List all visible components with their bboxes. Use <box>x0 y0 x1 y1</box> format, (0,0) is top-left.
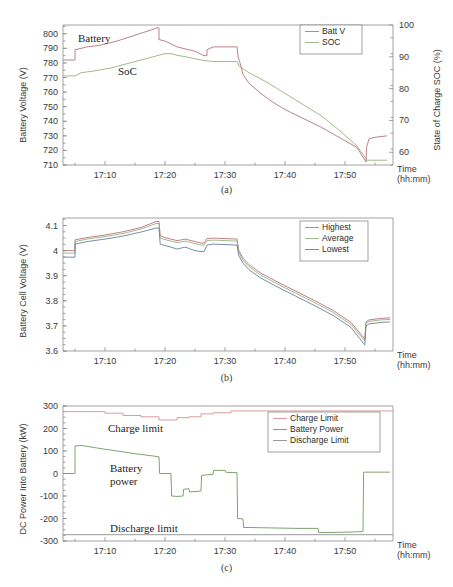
ytick-label: 720 <box>43 145 58 155</box>
xtick-label: 17:30 <box>214 170 237 180</box>
legend-label-average[interactable]: Average <box>322 233 354 243</box>
xtick-label: 17:50 <box>334 170 357 180</box>
chart-c-ylabel-text: DC Power Into Battery (kW) <box>18 423 28 534</box>
chart-c-plot: DC Power Into Battery (kW) -300-200-1000… <box>0 384 453 587</box>
chart-b-plot: Battery Cell Voltage (V) 3.63.73.83.944.… <box>0 196 453 388</box>
chart-c-ytick-labels: -300-200-1000100200300 <box>40 401 58 546</box>
chart-a-time-axis-label: Time (hh:mm) <box>397 164 431 184</box>
chart-b-caption: (b) <box>0 372 453 383</box>
chart-c-caption: (c) <box>0 562 453 573</box>
legend-label-charge-limit[interactable]: Charge Limit <box>290 413 339 423</box>
y2tick-label: 80 <box>399 84 409 94</box>
chart-c-time-label-line1: Time <box>397 540 417 550</box>
xtick-label: 17:20 <box>154 356 177 366</box>
ytick-label: 800 <box>43 29 58 39</box>
legend-label-soc[interactable]: SOC <box>322 37 340 47</box>
xtick-label: 17:40 <box>274 170 297 180</box>
legend-label-discharge-limit[interactable]: Discharge Limit <box>290 435 349 445</box>
chart-b-ylabel: Battery Cell Voltage (V) <box>18 244 28 338</box>
ytick-label: 760 <box>43 87 58 97</box>
chart-b-time-label-line1: Time <box>397 350 417 360</box>
panel-a: Battery Voltage (V) State of Charge SOC … <box>0 0 453 200</box>
ytick-label: 3.8 <box>45 296 58 306</box>
y2tick-label: 90 <box>399 52 409 62</box>
chart-b-time-axis-label: Time (hh:mm) <box>397 350 431 370</box>
xtick-label: 17:40 <box>274 546 297 556</box>
chart-c-ylabel: DC Power Into Battery (kW) <box>18 423 28 534</box>
legend-label-batt-v[interactable]: Batt V <box>322 26 345 36</box>
chart-a-y2label: State of Charge SOC (%) <box>432 49 442 151</box>
chart-b-xtick-labels: 17:1017:2017:3017:4017:50 <box>94 356 357 366</box>
xtick-label: 17:20 <box>154 170 177 180</box>
xtick-label: 17:50 <box>334 356 357 366</box>
chart-c-svg: DC Power Into Battery (kW) -300-200-1000… <box>0 384 453 587</box>
ytick-label: 770 <box>43 73 58 83</box>
chart-a-ylabel: Battery Voltage (V) <box>18 67 28 143</box>
battery-power-label-line1: Battery <box>110 462 143 474</box>
chart-a-legend[interactable]: Batt VSOC <box>300 25 362 54</box>
xtick-label: 17:30 <box>214 546 237 556</box>
ytick-label: 300 <box>43 401 58 411</box>
chart-a-plot: Battery Voltage (V) State of Charge SOC … <box>0 0 453 200</box>
panel-c: DC Power Into Battery (kW) -300-200-1000… <box>0 384 453 587</box>
legend-label-highest[interactable]: Highest <box>322 222 351 232</box>
ytick-label: 710 <box>43 160 58 170</box>
panel-b: Battery Cell Voltage (V) 3.63.73.83.944.… <box>0 196 453 388</box>
series-line-soc <box>63 54 387 161</box>
chart-c-time-axis-label: Time (hh:mm) <box>397 540 431 560</box>
chart-b-time-label-line2: (hh:mm) <box>397 360 431 370</box>
ytick-label: -300 <box>40 536 58 546</box>
xtick-label: 17:10 <box>94 356 117 366</box>
battery-power-label-line2: power <box>110 475 138 487</box>
chart-a-xtick-labels: 17:1017:2017:3017:4017:50 <box>94 170 357 180</box>
chart-a-y2label-text: State of Charge SOC (%) <box>432 49 442 151</box>
chart-b-ylabel-text: Battery Cell Voltage (V) <box>18 244 28 338</box>
ytick-label: 4 <box>53 246 58 256</box>
ytick-label: 3.6 <box>45 346 58 356</box>
legend-label-lowest[interactable]: Lowest <box>322 244 350 254</box>
ytick-label: -200 <box>40 514 58 524</box>
battery-label: Battery <box>78 32 111 44</box>
soc-label: SoC <box>118 65 137 77</box>
chart-b-svg: Battery Cell Voltage (V) 3.63.73.83.944.… <box>0 196 453 388</box>
ytick-label: 780 <box>43 58 58 68</box>
chart-c-xtick-labels: 17:1017:2017:3017:4017:50 <box>94 546 357 556</box>
y2tick-label: 60 <box>399 147 409 157</box>
discharge-limit-label: Discharge limit <box>110 522 178 534</box>
ytick-label: -100 <box>40 491 58 501</box>
xtick-label: 17:50 <box>334 546 357 556</box>
xtick-label: 17:30 <box>214 356 237 366</box>
ytick-label: 3.7 <box>45 321 58 331</box>
chart-a-svg: Battery Voltage (V) State of Charge SOC … <box>0 0 453 200</box>
ytick-label: 750 <box>43 102 58 112</box>
ytick-label: 0 <box>53 469 58 479</box>
charge-limit-label: Charge limit <box>108 422 163 434</box>
ytick-label: 4.1 <box>45 221 58 231</box>
xtick-label: 17:20 <box>154 546 177 556</box>
chart-b-legend[interactable]: HighestAverageLowest <box>300 221 368 261</box>
xtick-label: 17:40 <box>274 356 297 366</box>
ytick-label: 730 <box>43 131 58 141</box>
chart-a-ylabel-text: Battery Voltage (V) <box>18 67 28 143</box>
ytick-label: 3.9 <box>45 271 58 281</box>
chart-c-legend[interactable]: Charge LimitBattery PowerDischarge Limit <box>268 412 380 452</box>
chart-a-ytick-labels: 710720730740750760770780790800 <box>43 29 58 170</box>
chart-a-y2tick-labels: 60708090100 <box>399 20 414 157</box>
ytick-label: 100 <box>43 446 58 456</box>
chart-a-time-label-line2: (hh:mm) <box>397 174 431 184</box>
ytick-label: 740 <box>43 116 58 126</box>
legend-label-battery-power[interactable]: Battery Power <box>290 424 344 434</box>
chart-b-ytick-labels: 3.63.73.83.944.1 <box>45 221 58 356</box>
chart-a-caption: (a) <box>0 184 453 195</box>
chart-a-time-label-line1: Time <box>397 164 417 174</box>
chart-c-time-label-line2: (hh:mm) <box>397 550 431 560</box>
y2tick-label: 70 <box>399 115 409 125</box>
y2tick-label: 100 <box>399 20 414 30</box>
chart-a-annotations: Battery SoC <box>78 32 137 77</box>
ytick-label: 200 <box>43 424 58 434</box>
chart-c-annotations: Charge limit Battery power Discharge lim… <box>108 422 178 534</box>
xtick-label: 17:10 <box>94 170 117 180</box>
series-line-battery-power <box>63 445 390 532</box>
xtick-label: 17:10 <box>94 546 117 556</box>
ytick-label: 790 <box>43 43 58 53</box>
